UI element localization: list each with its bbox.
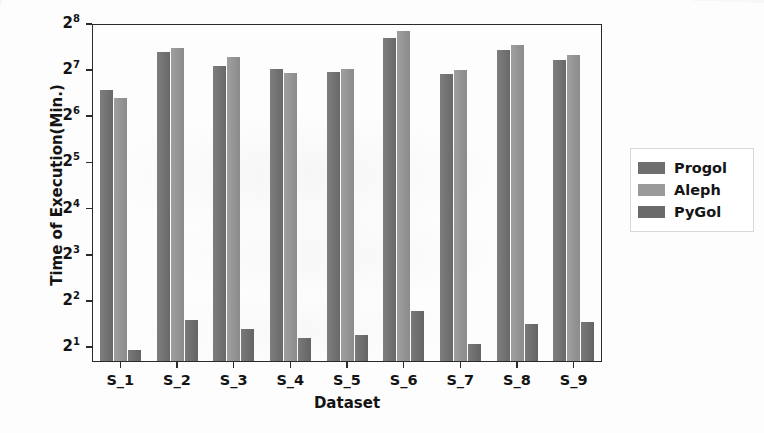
x-tick-label: S_1 bbox=[94, 372, 146, 388]
legend-label: Aleph bbox=[674, 182, 721, 198]
x-tick-mark bbox=[460, 362, 462, 368]
x-tick-label: S_4 bbox=[264, 372, 316, 388]
x-tick-mark bbox=[346, 362, 348, 368]
x-tick-mark bbox=[290, 362, 292, 368]
legend-item-progol[interactable]: Progol bbox=[638, 158, 745, 178]
x-tick-label: S_9 bbox=[548, 372, 600, 388]
x-tick-mark bbox=[176, 362, 178, 368]
x-tick-label: S_2 bbox=[151, 372, 203, 388]
legend-item-pygol[interactable]: PyGol bbox=[638, 202, 745, 222]
x-tick-label: S_3 bbox=[208, 372, 260, 388]
legend-swatch-icon bbox=[638, 162, 665, 174]
chart-legend: ProgolAlephPyGol bbox=[630, 148, 754, 232]
y-axis-label: Time of Execution(Min.) bbox=[48, 35, 66, 335]
x-tick-mark bbox=[233, 362, 235, 368]
legend-swatch-icon bbox=[638, 184, 665, 196]
legend-swatch-icon bbox=[638, 206, 665, 218]
x-tick-mark bbox=[403, 362, 405, 368]
x-tick-label: S_6 bbox=[378, 372, 430, 388]
x-tick-label: S_8 bbox=[491, 372, 543, 388]
bar-chart-figure: 2827262524232221 S_1S_2S_3S_4S_5S_6S_7S_… bbox=[0, 0, 764, 433]
x-tick-mark bbox=[120, 362, 122, 368]
legend-item-aleph[interactable]: Aleph bbox=[638, 180, 745, 200]
x-axis-label: Dataset bbox=[92, 394, 602, 412]
legend-label: PyGol bbox=[674, 204, 721, 220]
x-tick-mark bbox=[573, 362, 575, 368]
x-tick-label: S_5 bbox=[321, 372, 373, 388]
legend-label: Progol bbox=[674, 160, 727, 176]
x-tick-label: S_7 bbox=[434, 372, 486, 388]
x-tick-mark bbox=[516, 362, 518, 368]
